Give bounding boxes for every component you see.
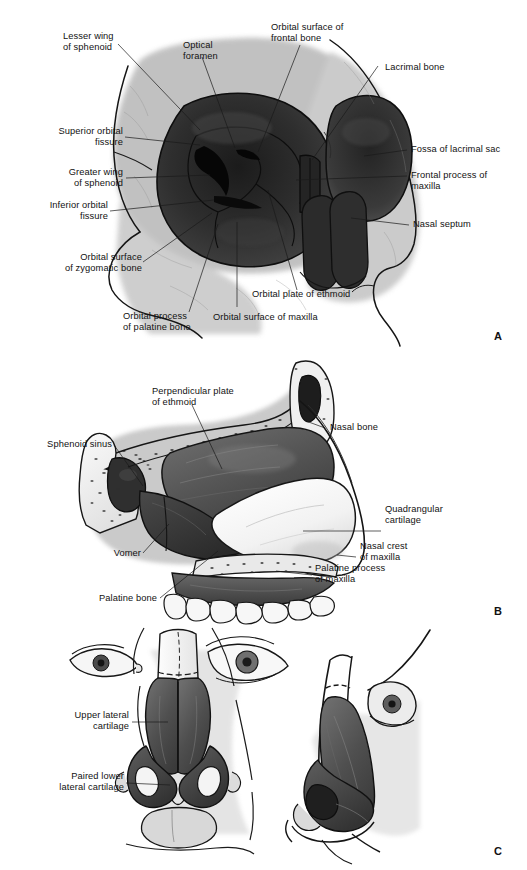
panel-b-illustration	[0, 355, 527, 620]
label-perpendicular-plate-of-ethmoid: Perpendicular plate of ethmoid	[152, 386, 234, 408]
upper-lateral-cartilage	[146, 678, 211, 774]
panel-b: Perpendicular plate of ethmoid Sphenoid …	[0, 355, 527, 620]
label-orbital-surface-of-maxilla: Orbital surface of maxilla	[213, 312, 318, 323]
label-frontal-process-of-maxilla: Frontal process of maxilla	[411, 170, 487, 192]
label-lesser-wing-of-sphenoid: Lesser wing of sphenoid	[63, 31, 114, 53]
label-nasal-crest-of-maxilla: Nasal crest of maxilla	[360, 541, 408, 563]
label-superior-orbital-fissure: Superior orbital fissure	[20, 126, 123, 148]
label-sphenoid-sinus: Sphenoid sinus	[18, 439, 112, 450]
left-eye	[70, 645, 142, 677]
lateral-eye	[368, 682, 416, 726]
label-orbital-surface-of-frontal-bone: Orbital surface of frontal bone	[271, 22, 343, 44]
panel-a: Lesser wing of sphenoid Optical foramen …	[0, 0, 527, 355]
label-orbital-surface-of-zygomatic-bone: Orbital surface of zygomatic bone	[20, 252, 142, 274]
label-nasal-bone: Nasal bone	[330, 422, 378, 433]
label-optical-foramen: Optical foramen	[183, 40, 218, 62]
label-greater-wing-of-sphenoid: Greater wing of sphenoid	[20, 167, 123, 189]
label-upper-lateral-cartilage: Upper lateral cartilage	[55, 710, 129, 732]
panel-letter-c: C	[494, 845, 502, 857]
label-paired-lower-lateral-cartilage: Paired lower lateral cartilage	[28, 771, 124, 793]
label-quadrangular-cartilage: Quadrangular cartilage	[385, 504, 443, 526]
nose-frontal-view	[70, 628, 288, 854]
anatomy-figure: Lesser wing of sphenoid Optical foramen …	[0, 0, 527, 870]
label-orbital-plate-of-ethmoid: Orbital plate of ethmoid	[252, 289, 350, 300]
label-fossa-of-lacrimal-sac: Fossa of lacrimal sac	[411, 144, 500, 155]
label-palatine-bone: Palatine bone	[60, 593, 157, 604]
label-nasal-septum: Nasal septum	[413, 219, 471, 230]
panel-c-illustration	[0, 620, 527, 870]
label-orbital-process-of-palatine-bone: Orbital process of palatine bone	[123, 311, 191, 333]
label-lacrimal-bone: Lacrimal bone	[385, 62, 445, 73]
nose-lateral-view	[286, 630, 430, 864]
panel-letter-a: A	[494, 330, 502, 342]
panel-letter-b: B	[494, 605, 502, 617]
panel-c: Upper lateral cartilage Paired lower lat…	[0, 620, 527, 870]
label-inferior-orbital-fissure: Inferior orbital fissure	[5, 200, 108, 222]
label-vomer: Vomer	[63, 548, 141, 559]
label-palatine-process-of-maxilla: Palatine process of maxilla	[315, 563, 385, 585]
